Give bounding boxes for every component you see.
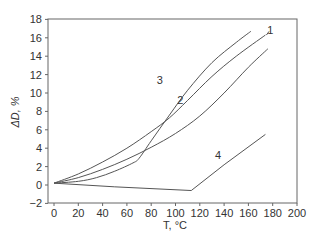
y-tick-label: 0	[36, 179, 42, 191]
curve-3	[54, 31, 251, 183]
plot-frame: 020406080100120140160180200−202468101214…	[29, 13, 306, 219]
curve-labels: 1234	[157, 24, 274, 160]
curves	[54, 31, 268, 190]
line-chart: 020406080100120140160180200−202468101214…	[0, 0, 318, 245]
x-tick-label: 140	[215, 207, 233, 219]
y-tick-label: 18	[30, 13, 42, 25]
x-tick-label: 100	[166, 207, 184, 219]
x-tick-label: 200	[288, 207, 306, 219]
y-axis-title: ΔD, %	[9, 96, 21, 128]
y-tick-label: 16	[30, 32, 42, 44]
x-tick-label: 180	[264, 207, 282, 219]
curve-label-4: 4	[215, 149, 221, 161]
x-tick-label: 160	[239, 207, 257, 219]
x-axis-title: T, °C	[163, 219, 187, 231]
curve-label-2: 2	[177, 94, 183, 106]
y-tick-label: 4	[36, 142, 42, 154]
y-tick-label: 14	[30, 50, 42, 62]
y-tick-label: 6	[36, 124, 42, 136]
y-tick-label: 2	[36, 161, 42, 173]
x-tick-label: 60	[121, 207, 133, 219]
y-tick-label: −2	[29, 197, 42, 209]
curve-1	[54, 35, 265, 183]
y-tick-label: 10	[30, 87, 42, 99]
curve-label-3: 3	[157, 74, 163, 86]
y-tick-label: 8	[36, 105, 42, 117]
curve-label-1: 1	[267, 24, 273, 36]
x-tick-label: 40	[96, 207, 108, 219]
x-tick-label: 80	[145, 207, 157, 219]
y-tick-label: 12	[30, 69, 42, 81]
x-tick-label: 120	[191, 207, 209, 219]
x-tick-label: 20	[72, 207, 84, 219]
curve-2	[54, 49, 268, 183]
x-tick-label: 0	[51, 207, 57, 219]
